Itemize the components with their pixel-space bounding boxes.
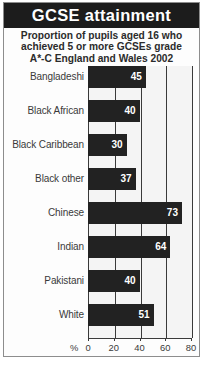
bar-row: Black Caribbean30 xyxy=(0,134,203,168)
bar-chinese: 73 xyxy=(88,202,182,224)
x-tick-20 xyxy=(114,338,115,341)
bar-bangladeshi: 45 xyxy=(88,66,146,88)
bar-value-label: 37 xyxy=(121,168,132,190)
category-label-black-caribbean: Black Caribbean xyxy=(0,134,84,156)
subtitle-line-3: A*-C England and Wales 2002 xyxy=(5,53,198,64)
chart-title-bar: GCSE attainment xyxy=(4,3,199,28)
bar-value-label: 73 xyxy=(167,202,178,224)
x-tick-label-0: 0 xyxy=(78,342,98,353)
bar-row: Pakistani40 xyxy=(0,270,203,304)
category-label-chinese: Chinese xyxy=(0,202,84,224)
bar-row: Black other37 xyxy=(0,168,203,202)
x-tick-80 xyxy=(191,338,192,341)
category-label-indian: Indian xyxy=(0,236,84,258)
category-label-pakistani: Pakistani xyxy=(0,270,84,292)
bar-row: Bangladeshi45 xyxy=(0,66,203,100)
bar-value-label: 40 xyxy=(124,100,135,122)
x-tick-label-20: 20 xyxy=(104,342,124,353)
x-tick-60 xyxy=(165,338,166,341)
x-tick-40 xyxy=(140,338,141,341)
bar-black-other: 37 xyxy=(88,168,136,190)
bar-rows: Bangladeshi45Black African40Black Caribb… xyxy=(0,66,203,338)
category-label-black-african: Black African xyxy=(0,100,84,122)
bar-row: Indian64 xyxy=(0,236,203,270)
category-label-bangladeshi: Bangladeshi xyxy=(0,66,84,88)
bar-pakistani: 40 xyxy=(88,270,140,292)
page-title: GCSE attainment xyxy=(32,7,171,24)
bar-row: Chinese73 xyxy=(0,202,203,236)
subtitle-line-1: Proportion of pupils aged 16 who xyxy=(5,30,198,41)
x-tick-0 xyxy=(88,338,89,341)
category-label-black-other: Black other xyxy=(0,168,84,190)
bar-row: Black African40 xyxy=(0,100,203,134)
bar-black-caribbean: 30 xyxy=(88,134,127,156)
bar-value-label: 64 xyxy=(155,236,166,258)
bar-value-label: 51 xyxy=(139,304,150,326)
chart-subtitle: Proportion of pupils aged 16 who achieve… xyxy=(5,30,198,64)
bar-value-label: 45 xyxy=(131,66,142,88)
subtitle-line-2: achieved 5 or more GCSEs grade xyxy=(5,41,198,52)
bar-black-african: 40 xyxy=(88,100,140,122)
chart-figure: GCSE attainment Proportion of pupils age… xyxy=(0,0,203,369)
x-tick-label-80: 80 xyxy=(181,342,201,353)
bar-row: White51 xyxy=(0,304,203,338)
percent-axis-label: % xyxy=(70,342,78,353)
category-label-white: White xyxy=(0,304,84,326)
x-tick-label-40: 40 xyxy=(130,342,150,353)
bar-value-label: 40 xyxy=(124,270,135,292)
bar-value-label: 30 xyxy=(112,134,123,156)
bar-indian: 64 xyxy=(88,236,170,258)
bar-white: 51 xyxy=(88,304,154,326)
x-tick-label-60: 60 xyxy=(155,342,175,353)
